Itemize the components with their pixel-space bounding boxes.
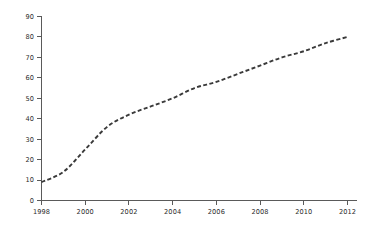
x-tick-label: 1998 (33, 208, 50, 216)
x-tick-label: 2000 (77, 208, 94, 216)
y-tick-label: 20 (25, 156, 34, 164)
chart-background (0, 0, 370, 231)
y-tick-label: 60 (25, 74, 34, 82)
chart-canvas: 0102030405060708090 19982000200220042006… (0, 0, 370, 231)
y-tick-label: 30 (25, 136, 34, 144)
y-tick-label: 80 (25, 33, 34, 41)
x-tick-label: 2008 (251, 208, 268, 216)
y-tick-label: 0 (30, 197, 34, 205)
x-tick-label: 2002 (120, 208, 137, 216)
x-tick-label: 2006 (208, 208, 225, 216)
x-tick-label: 2004 (164, 208, 181, 216)
line-chart: 0102030405060708090 19982000200220042006… (0, 0, 370, 231)
x-tick-label: 2010 (295, 208, 312, 216)
y-tick-label: 70 (25, 54, 34, 62)
y-tick-label: 50 (25, 95, 34, 103)
y-tick-label: 40 (25, 115, 34, 123)
y-tick-label: 10 (25, 176, 34, 184)
y-tick-label: 90 (25, 13, 34, 21)
x-tick-label: 2012 (339, 208, 356, 216)
